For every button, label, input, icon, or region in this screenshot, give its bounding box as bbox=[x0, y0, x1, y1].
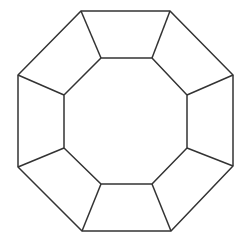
outer-octagon bbox=[18, 11, 233, 231]
octagon-diagram bbox=[0, 0, 251, 239]
inner-octagon bbox=[64, 58, 187, 184]
spoke-line bbox=[18, 75, 64, 95]
spoke-line bbox=[81, 11, 101, 58]
spoke-line bbox=[187, 148, 233, 166]
spoke-line bbox=[152, 184, 171, 231]
spoke-line bbox=[187, 75, 233, 95]
spokes-group bbox=[18, 11, 233, 231]
spoke-line bbox=[18, 148, 64, 167]
spoke-line bbox=[82, 184, 101, 231]
spoke-line bbox=[152, 11, 170, 58]
